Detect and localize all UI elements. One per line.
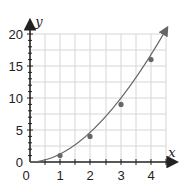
x-tick-4: 4	[147, 168, 154, 183]
grid	[30, 34, 166, 162]
point-1	[57, 153, 62, 158]
x-tick-0: 0	[22, 168, 29, 183]
x-tick-1: 1	[56, 168, 63, 183]
y-tick-20: 20	[9, 27, 23, 42]
chart: 0 1 2 3 4 0 5 10 15 20 x y	[0, 0, 188, 192]
y-tick-10: 10	[9, 91, 23, 106]
x-axis-label: x	[168, 145, 176, 160]
y-tick-5: 5	[16, 123, 23, 138]
axes	[30, 21, 176, 162]
y-axis-label: y	[34, 14, 43, 29]
point-3	[118, 102, 123, 107]
point-2	[87, 134, 92, 139]
x-tick-3: 3	[117, 168, 124, 183]
point-4	[148, 57, 153, 62]
curve	[30, 28, 167, 162]
y-tick-15: 15	[9, 59, 23, 74]
x-tick-2: 2	[86, 168, 93, 183]
y-tick-0: 0	[16, 155, 23, 170]
